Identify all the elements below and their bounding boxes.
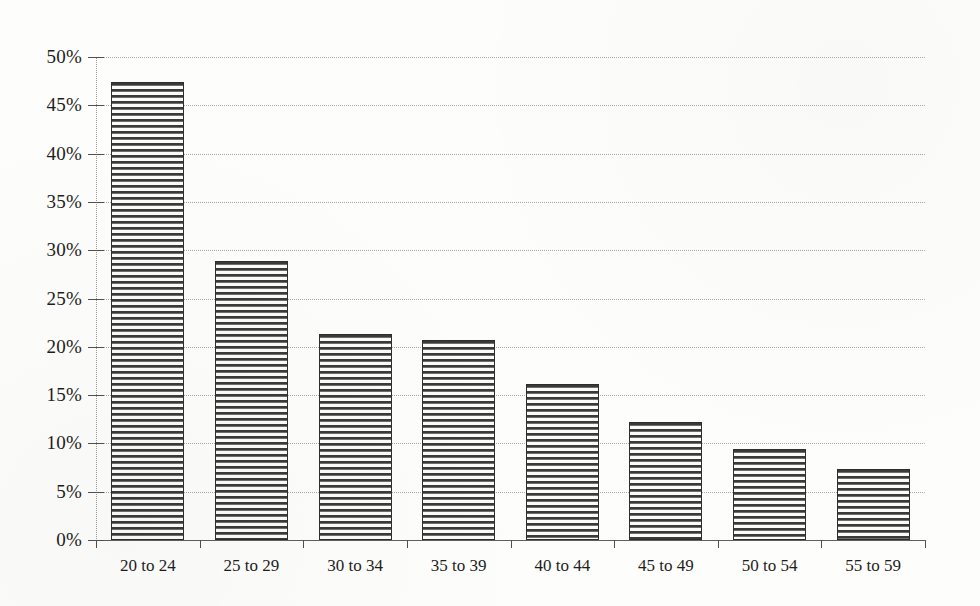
y-axis-tick [88,57,104,58]
y-axis-tick [88,299,104,300]
y-axis-tick [88,347,104,348]
x-axis-tick-label: 40 to 44 [534,556,590,576]
y-axis-labels: 0%5%10%15%20%25%30%35%40%45%50% [14,0,82,606]
x-axis-tick [614,540,615,548]
x-axis-tick [718,540,719,548]
bar-chart: 0%5%10%15%20%25%30%35%40%45%50% 20 to 24… [0,0,980,606]
x-axis-tick [303,540,304,548]
bar [837,469,910,540]
bar [111,82,184,540]
x-axis-tick-label: 30 to 34 [327,556,383,576]
y-axis-tick-label: 5% [24,481,82,503]
bar [733,449,806,540]
x-axis-tick [407,540,408,548]
y-axis-tick-label: 35% [24,191,82,213]
x-axis-tick-label: 35 to 39 [431,556,487,576]
x-axis-tick [821,540,822,548]
y-axis-tick-label: 50% [24,46,82,68]
y-axis-tick [88,395,104,396]
y-axis-tick-label: 25% [24,288,82,310]
y-axis-tick-label: 45% [24,94,82,116]
y-axis-tick-label: 40% [24,143,82,165]
bar [319,334,392,540]
y-axis-tick [88,105,104,106]
y-axis-tick [88,540,104,541]
y-axis-tick [88,250,104,251]
y-axis-tick-label: 15% [24,384,82,406]
gridline [96,202,925,203]
x-axis-tick-label: 20 to 24 [120,556,176,576]
y-axis-tick [88,202,104,203]
y-axis-tick-label: 20% [24,336,82,358]
y-axis-tick-label: 10% [24,432,82,454]
x-axis-tick-label: 50 to 54 [742,556,798,576]
y-axis-tick [88,443,104,444]
x-axis-tick [925,540,926,548]
bar [629,422,702,540]
x-axis-tick [96,540,97,548]
gridline [96,57,925,58]
bar [526,384,599,540]
x-axis-tick-label: 55 to 59 [845,556,901,576]
gridline [96,154,925,155]
y-axis-tick [88,492,104,493]
x-axis-tick-label: 45 to 49 [638,556,694,576]
gridline [96,250,925,251]
y-axis-tick-label: 0% [24,529,82,551]
y-axis-tick [88,154,104,155]
y-axis-tick-label: 30% [24,239,82,261]
x-axis-tick [200,540,201,548]
bar [215,261,288,540]
bar [422,340,495,540]
plot-area [96,57,925,540]
gridline [96,105,925,106]
x-axis-tick [511,540,512,548]
x-axis-tick-label: 25 to 29 [224,556,280,576]
